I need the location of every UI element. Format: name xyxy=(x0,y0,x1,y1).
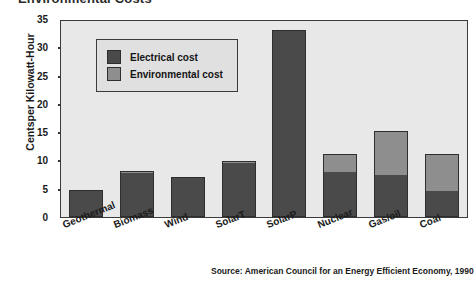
bar-segment-electrical xyxy=(171,177,205,217)
chart-title-cropped: Environmental Costs xyxy=(0,0,475,9)
legend-label-environmental: Environmental cost xyxy=(130,69,223,80)
y-tick-label: 10 xyxy=(22,155,48,166)
page-title: Environmental Costs xyxy=(18,0,152,6)
bar-segment-electrical xyxy=(425,191,459,217)
bar-segment-environmental xyxy=(425,154,459,191)
legend-label-electrical: Electrical cost xyxy=(130,52,198,63)
y-tick-label: 30 xyxy=(22,42,48,53)
legend: Electrical cost Environmental cost xyxy=(96,39,238,92)
legend-item-environmental: Environmental cost xyxy=(107,67,223,81)
bar-segment-environmental xyxy=(323,154,357,172)
bar-gas-oil xyxy=(374,21,408,217)
bar-segment-environmental xyxy=(374,131,408,175)
x-axis-labels: GeothermalBiomassWindSolarTSolarPNuclear… xyxy=(60,220,468,262)
bar-nuclear xyxy=(323,21,357,217)
y-tick-label: 15 xyxy=(22,127,48,138)
environmental-costs-chart: Environmental Costs Centsper Kilowatt-Ho… xyxy=(0,0,475,288)
y-tick-label: 5 xyxy=(22,184,48,195)
bar-solarp xyxy=(272,21,306,217)
source-note: Source: American Council for an Energy E… xyxy=(211,266,474,276)
y-tick-label: 20 xyxy=(22,99,48,110)
y-tick-label: 0 xyxy=(22,212,48,223)
bar-segment-electrical xyxy=(272,30,306,217)
legend-swatch-electrical-icon xyxy=(107,50,121,64)
y-tick-label: 35 xyxy=(22,14,48,25)
legend-item-electrical: Electrical cost xyxy=(107,50,223,64)
bar-coal xyxy=(425,21,459,217)
y-tick-label: 25 xyxy=(22,71,48,82)
legend-swatch-environmental-icon xyxy=(107,67,121,81)
